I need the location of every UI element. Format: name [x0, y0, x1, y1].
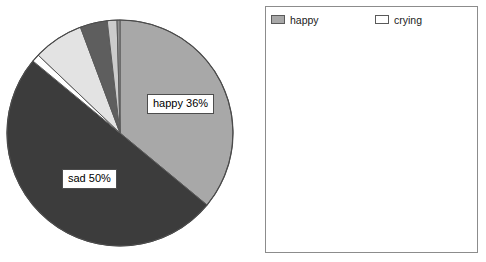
- pie-data-label-sad: sad 50%: [62, 169, 117, 189]
- pie-chart-svg: [0, 0, 258, 262]
- legend-label-happy: happy: [290, 14, 319, 26]
- legend-panel: happycryingexcitedgoodcrossyuckyworriedu…: [265, 6, 478, 253]
- legend-label-crying: crying: [394, 14, 422, 26]
- legend-swatch-happy: [271, 15, 285, 24]
- pie-chart-area: happy 36% sad 50%: [0, 0, 258, 262]
- pie-data-label-happy: happy 36%: [147, 94, 214, 114]
- legend-swatch-crying: [375, 15, 389, 24]
- legend-item-happy[interactable]: happy: [271, 11, 375, 28]
- legend-entries-grid: happycryingexcitedgoodcrossyuckyworriedu…: [271, 11, 474, 250]
- chart-root: happy 36% sad 50% happycryingexcitedgood…: [0, 0, 486, 262]
- legend-item-crying[interactable]: crying: [375, 11, 474, 28]
